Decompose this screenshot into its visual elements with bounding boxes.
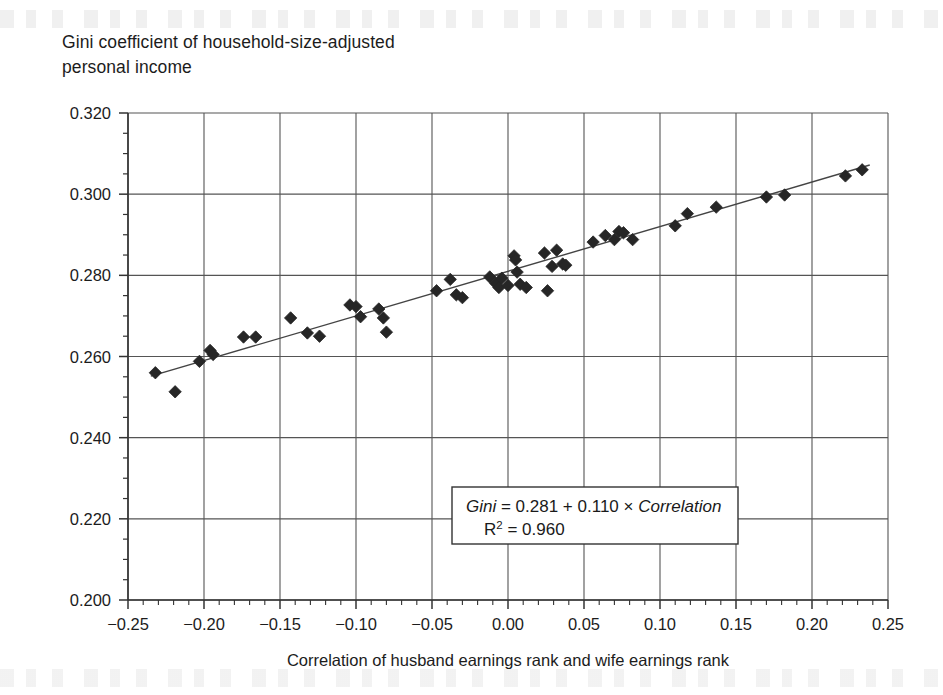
svg-text:0.10: 0.10 xyxy=(644,615,676,633)
data-point xyxy=(313,330,325,342)
svg-text:0.220: 0.220 xyxy=(70,510,111,528)
svg-text:−0.25: −0.25 xyxy=(107,615,149,633)
data-point xyxy=(760,191,772,203)
svg-text:0.25: 0.25 xyxy=(872,615,904,633)
svg-text:0.200: 0.200 xyxy=(70,591,111,609)
svg-text:0.320: 0.320 xyxy=(70,104,111,122)
svg-text:0.20: 0.20 xyxy=(796,615,828,633)
data-point xyxy=(237,331,249,343)
svg-text:0.260: 0.260 xyxy=(70,348,111,366)
data-point xyxy=(284,312,296,324)
svg-text:0.00: 0.00 xyxy=(492,615,524,633)
data-point xyxy=(380,326,392,338)
data-point xyxy=(538,247,550,259)
svg-text:0.300: 0.300 xyxy=(70,185,111,203)
y-axis-title: Gini coefficient of household-size-adjus… xyxy=(62,30,395,80)
svg-text:0.05: 0.05 xyxy=(568,615,600,633)
data-point xyxy=(546,260,558,272)
svg-text:−0.20: −0.20 xyxy=(183,615,225,633)
data-points xyxy=(149,164,868,398)
svg-text:0.240: 0.240 xyxy=(70,429,111,447)
svg-text:Gini = 0.281 + 0.110 × Correla: Gini = 0.281 + 0.110 × Correlation xyxy=(466,497,721,516)
svg-text:−0.05: −0.05 xyxy=(411,615,453,633)
data-point xyxy=(249,331,261,343)
x-axis-title: Correlation of husband earnings rank and… xyxy=(128,651,888,670)
svg-text:0.280: 0.280 xyxy=(70,266,111,284)
scatter-plot: 0.2000.2200.2400.2600.2800.3000.320−0.25… xyxy=(0,0,943,695)
data-point xyxy=(169,386,181,398)
svg-text:R2 = 0.960: R2 = 0.960 xyxy=(484,519,565,539)
data-point xyxy=(550,244,562,256)
data-point xyxy=(541,285,553,297)
data-point xyxy=(149,367,161,379)
data-point xyxy=(587,236,599,248)
svg-text:−0.10: −0.10 xyxy=(335,615,377,633)
svg-text:−0.15: −0.15 xyxy=(259,615,301,633)
figure-container: Gini coefficient of household-size-adjus… xyxy=(0,0,943,695)
svg-text:0.15: 0.15 xyxy=(720,615,752,633)
regression-annotation: Gini = 0.281 + 0.110 × CorrelationR2 = 0… xyxy=(452,487,738,544)
axis-tick-labels: 0.2000.2200.2400.2600.2800.3000.320−0.25… xyxy=(70,104,904,633)
